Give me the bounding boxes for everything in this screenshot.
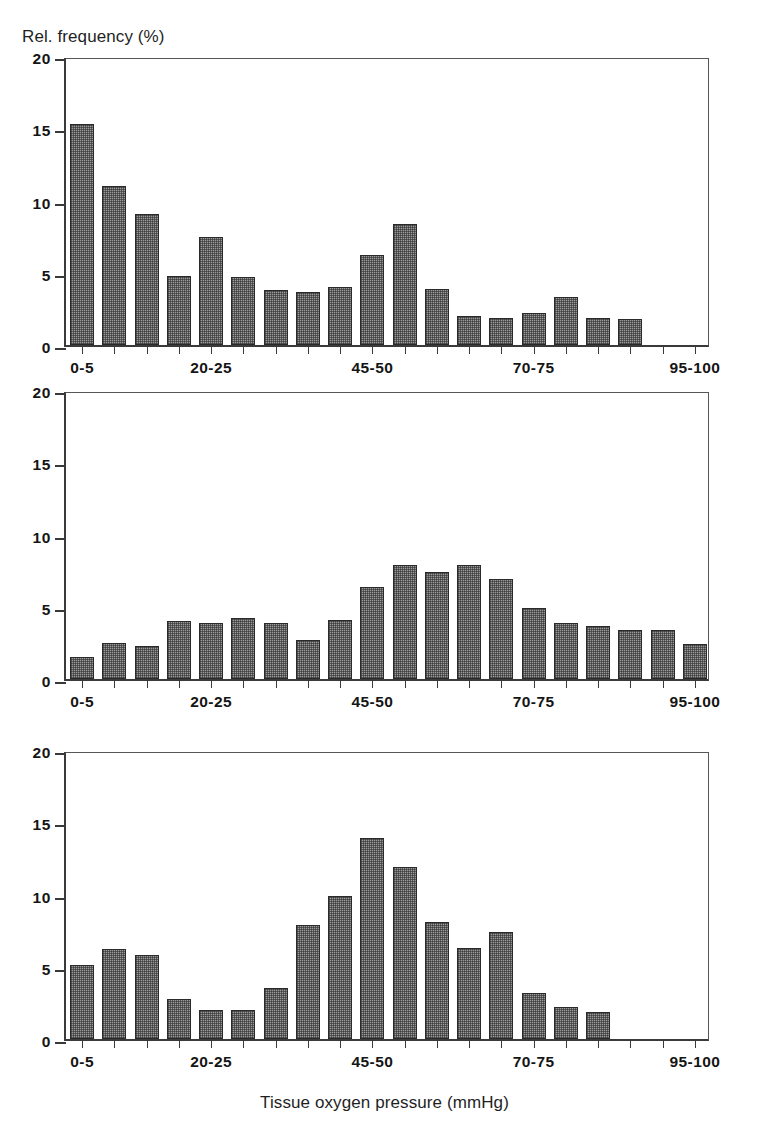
y-axis-tick	[55, 276, 66, 278]
histogram-bar	[102, 186, 126, 345]
x-axis-tick	[308, 345, 309, 354]
histogram-bar	[296, 925, 320, 1039]
x-axis-tick	[501, 345, 502, 354]
x-axis-tick	[114, 345, 115, 354]
histogram-bar	[167, 999, 191, 1039]
x-axis-tick	[598, 1039, 599, 1048]
x-axis-tick	[276, 345, 277, 354]
y-axis-tick	[55, 538, 66, 540]
x-axis-tick	[566, 1039, 567, 1048]
y-axis-tick-label: 20	[33, 384, 51, 402]
x-axis-tick	[437, 1039, 438, 1048]
x-axis-tick-label: 95-100	[670, 359, 721, 377]
histogram-bar	[264, 623, 288, 679]
histogram-bar	[457, 316, 481, 345]
histogram-bar	[489, 932, 513, 1039]
histogram-bar	[586, 318, 610, 345]
histogram-bar	[554, 297, 578, 345]
y-axis-tick-label: 15	[33, 816, 51, 834]
y-axis-tick-label: 10	[33, 529, 51, 547]
histogram-bar	[199, 237, 223, 345]
x-axis-tick-label: 95-100	[670, 1053, 721, 1071]
x-axis-tick	[340, 345, 341, 354]
histogram-bar	[554, 1007, 578, 1039]
x-axis-tick-label: 70-75	[513, 1053, 555, 1071]
y-axis-tick-label: 0	[42, 339, 51, 357]
x-axis-tick-label: 20-25	[190, 693, 232, 711]
histogram-bar	[522, 993, 546, 1039]
x-axis-tick	[695, 1039, 696, 1048]
x-axis-tick	[147, 679, 148, 688]
histogram-bar	[199, 623, 223, 679]
histogram-bar	[328, 287, 352, 345]
y-axis-tick-label: 10	[33, 889, 51, 907]
x-axis-tick	[211, 1039, 212, 1048]
x-axis-tick-label: 70-75	[513, 693, 555, 711]
histogram-bar	[489, 318, 513, 345]
histogram-bar	[586, 1012, 610, 1039]
histogram-bar	[296, 292, 320, 345]
histogram-bar	[167, 276, 191, 345]
histogram-bar	[554, 623, 578, 679]
y-axis-tick	[55, 610, 66, 612]
x-axis-tick	[211, 679, 212, 688]
x-axis-tick	[598, 679, 599, 688]
y-axis-label: Rel. frequency (%)	[22, 27, 165, 47]
x-axis-tick	[147, 1039, 148, 1048]
x-axis-tick	[308, 679, 309, 688]
x-axis-tick	[566, 679, 567, 688]
x-axis-tick	[695, 679, 696, 688]
x-axis-tick	[663, 1039, 664, 1048]
histogram-bar	[231, 1010, 255, 1039]
x-axis-tick	[469, 679, 470, 688]
x-axis-tick	[82, 1039, 83, 1048]
x-axis-tick	[405, 1039, 406, 1048]
x-axis-tick	[276, 1039, 277, 1048]
y-axis-tick	[55, 825, 66, 827]
x-axis-tick	[501, 1039, 502, 1048]
x-axis-tick	[179, 1039, 180, 1048]
histogram-bar	[586, 626, 610, 679]
y-axis-tick-label: 5	[42, 601, 51, 619]
x-axis-tick-label: 20-25	[190, 359, 232, 377]
y-axis-tick	[55, 465, 66, 467]
y-axis-tick	[55, 204, 66, 206]
y-axis-tick-label: 15	[33, 456, 51, 474]
histogram-bar	[296, 640, 320, 679]
x-axis-tick	[211, 345, 212, 354]
histogram-bar	[102, 949, 126, 1039]
x-axis-tick	[534, 1039, 535, 1048]
histogram-bar	[264, 988, 288, 1039]
x-axis-tick	[437, 345, 438, 354]
y-axis-tick	[55, 970, 66, 972]
histogram-bar	[102, 643, 126, 679]
x-axis-label: Tissue oxygen pressure (mmHg)	[0, 1093, 769, 1113]
x-axis-tick	[372, 345, 373, 354]
x-axis-tick-label: 70-75	[513, 359, 555, 377]
x-axis-tick	[340, 1039, 341, 1048]
histogram-bar	[70, 657, 94, 679]
x-axis-tick-label: 0-5	[70, 693, 94, 711]
histogram-bar	[135, 955, 159, 1039]
histogram-bar	[618, 630, 642, 679]
x-axis-tick	[534, 345, 535, 354]
x-axis-tick-label: 45-50	[352, 693, 394, 711]
x-axis-tick	[437, 679, 438, 688]
y-axis-tick	[55, 393, 66, 395]
x-axis-tick	[663, 345, 664, 354]
x-axis-tick-label: 0-5	[70, 359, 94, 377]
x-axis-tick	[276, 679, 277, 688]
y-axis-tick-label: 20	[33, 744, 51, 762]
histogram-bar	[425, 289, 449, 345]
panel-a-plot-area: 051015200-520-2545-5070-7595-100	[64, 58, 709, 347]
x-axis-tick-label: 20-25	[190, 1053, 232, 1071]
histogram-bar	[489, 579, 513, 679]
x-axis-tick	[179, 345, 180, 354]
histogram-bar	[199, 1010, 223, 1039]
x-axis-tick	[82, 345, 83, 354]
x-axis-tick	[695, 345, 696, 354]
y-axis-tick	[55, 682, 66, 684]
histogram-bar	[425, 572, 449, 679]
histogram-bar	[651, 630, 675, 679]
x-axis-tick	[114, 679, 115, 688]
